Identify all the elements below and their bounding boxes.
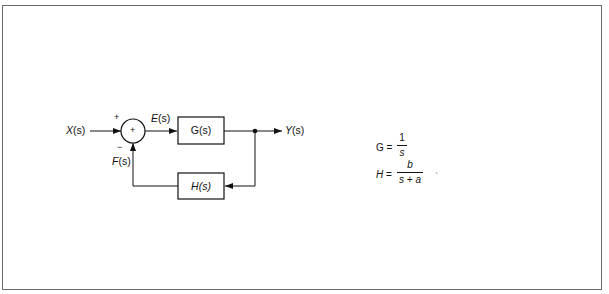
feedback-block-arg: (s) — [199, 180, 211, 192]
equation-h-lhs: H = — [376, 170, 392, 180]
summing-junction-symbol: + — [130, 126, 135, 135]
minus-sign: − — [117, 143, 122, 152]
feedback-path-left — [133, 143, 178, 186]
output-label-arg: (s) — [292, 124, 304, 136]
plus-sign: + — [114, 113, 119, 122]
output-label: Y(s) — [285, 125, 304, 136]
stray-mark: ` — [435, 173, 438, 183]
feedback-path-right — [225, 131, 255, 186]
feedback-label: F(s) — [112, 156, 131, 167]
equation-g-numerator: 1 — [399, 133, 405, 145]
equation-h-eq: = — [383, 169, 392, 180]
output-label-var: Y — [285, 124, 292, 136]
feedback-block-label: H(s) — [178, 181, 224, 192]
equation-g-denominator: s — [400, 146, 405, 158]
block-diagram-lines — [0, 0, 609, 294]
input-label-arg: (s) — [73, 124, 85, 136]
input-label: X(s) — [66, 125, 85, 136]
error-label: E(s) — [151, 113, 170, 124]
error-label-arg: (s) — [158, 112, 170, 124]
feedback-block-var: H — [191, 180, 199, 192]
equation-h-fraction: b s + a — [397, 160, 423, 185]
feedback-label-arg: (s) — [118, 155, 130, 167]
input-label-var: X — [66, 124, 73, 136]
error-label-var: E — [151, 112, 158, 124]
equation-h-denominator: s + a — [399, 173, 421, 185]
equation-h-numerator: b — [407, 160, 413, 172]
equation-g-lhs: G = — [376, 143, 392, 153]
forward-block-label: G(s) — [178, 125, 224, 136]
equation-g-fraction: 1 s — [397, 133, 407, 158]
